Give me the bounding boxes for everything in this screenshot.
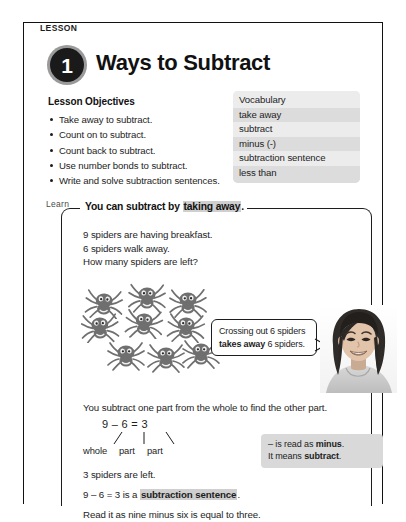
equation: 9 – 6 = 3: [102, 418, 148, 430]
vocabulary-term: subtraction sentence: [233, 151, 360, 166]
part-whole-ticks: [100, 431, 186, 446]
lesson-number-badge: 1: [47, 45, 87, 85]
objectives-list: Take away to subtract. Count on to subtr…: [48, 112, 238, 188]
read-aloud-line: Read it as nine minus six is equal to th…: [83, 508, 261, 522]
callout-rest: 6 spiders.: [265, 339, 305, 349]
spider: [146, 342, 186, 373]
lesson-header: 1 LESSON Ways to Subtract: [24, 23, 382, 85]
note-bold-subtract: subtract: [304, 451, 339, 461]
part-whole-labels: wholepartpart: [83, 445, 163, 456]
vocabulary-term: take away: [233, 108, 360, 123]
vocabulary-term: minus (-): [233, 137, 360, 152]
sentence-suffix: .: [237, 489, 240, 500]
objective-item: Write and solve subtraction sentences.: [48, 173, 238, 188]
learn-tab-text: Learn: [46, 199, 69, 209]
page-title: Ways to Subtract: [96, 50, 270, 76]
vocabulary-heading: Vocabulary: [233, 91, 360, 108]
objective-item: Take away to subtract.: [48, 112, 238, 127]
vocabulary-box: Vocabulary take away subtract minus (-) …: [233, 91, 360, 183]
spider: [80, 312, 120, 343]
objective-item: Count back to subtract.: [48, 143, 238, 158]
lesson-number: 1: [47, 45, 87, 85]
spider: [106, 340, 146, 371]
label-whole: whole: [83, 445, 119, 456]
vocabulary-term: less than: [233, 166, 360, 184]
story-line: 9 spiders are having breakfast.: [83, 228, 212, 242]
callout-line-1: Crossing out 6 spiders: [219, 325, 310, 338]
label-part-1: part: [119, 445, 147, 456]
learn-section: Learn You can subtract by taking away. 9…: [61, 208, 372, 506]
note-prefix: It means: [268, 451, 304, 461]
note-suffix: .: [339, 451, 341, 461]
note-line-2: It means subtract.: [268, 450, 376, 462]
callout-line-2: takes away 6 spiders.: [219, 338, 310, 351]
note-bold-minus: minus: [316, 439, 342, 449]
learn-heading-highlight: taking away: [183, 201, 242, 212]
sentence-highlight: subtraction sentence: [140, 489, 237, 500]
callout-bubble: Crossing out 6 spiders takes away 6 spid…: [211, 319, 317, 356]
note-line-1: – is read as minus.: [268, 438, 376, 450]
callout-bold: takes away: [219, 339, 265, 349]
subtraction-sentence-line: 9 – 6 = 3 is a subtraction sentence.: [83, 488, 240, 502]
answer-line: 3 spiders are left.: [83, 468, 155, 482]
vocabulary-term: subtract: [233, 122, 360, 137]
learn-heading-prefix: You can subtract by: [85, 201, 183, 212]
sentence-prefix: 9 – 6 = 3 is a: [83, 489, 140, 500]
label-part-2: part: [147, 445, 163, 456]
story-problem: 9 spiders are having breakfast. 6 spider…: [83, 228, 212, 269]
minus-note: – is read as minus. It means subtract.: [261, 434, 383, 468]
note-prefix: – is read as: [268, 439, 316, 449]
subtract-explanation: You subtract one part from the whole to …: [83, 401, 327, 415]
learn-heading-suffix: .: [241, 201, 244, 212]
learn-heading: You can subtract by taking away.: [82, 201, 247, 212]
spider: [124, 308, 164, 339]
worksheet-page: 1 LESSON Ways to Subtract Lesson Objecti…: [23, 22, 383, 504]
student-photo: [320, 305, 397, 393]
lesson-eyebrow-text: LESSON: [40, 23, 77, 33]
note-suffix: .: [342, 439, 344, 449]
lesson-objectives: Lesson Objectives Take away to subtract.…: [48, 96, 238, 188]
learn-tab: Learn: [46, 207, 80, 241]
objectives-heading: Lesson Objectives: [48, 96, 238, 107]
story-line: How many spiders are left?: [83, 255, 212, 269]
objective-item: Use number bonds to subtract.: [48, 158, 238, 173]
story-line: 6 spiders walk away.: [83, 242, 212, 256]
objective-item: Count on to subtract.: [48, 127, 238, 142]
